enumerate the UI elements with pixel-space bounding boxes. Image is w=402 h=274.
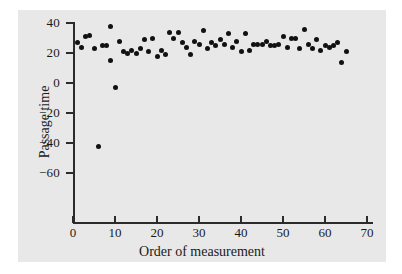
- scatter-point: [285, 45, 290, 50]
- y-tick-mark: [66, 172, 74, 174]
- x-axis-line: [73, 222, 373, 224]
- x-tick-mark: [156, 216, 158, 223]
- x-axis-title: Order of measurement: [18, 244, 386, 260]
- scatter-point: [184, 45, 189, 50]
- figure-panel: 40200−20−40−60010203040506070 Order of m…: [18, 10, 386, 262]
- scatter-point: [87, 33, 92, 38]
- scatter-point: [339, 60, 344, 65]
- y-tick-mark: [66, 22, 74, 24]
- scatter-point: [222, 42, 227, 47]
- x-tick-label: 50: [268, 226, 298, 239]
- scatter-point: [197, 42, 202, 47]
- x-tick-mark: [198, 216, 200, 223]
- x-tick-mark: [240, 216, 242, 223]
- y-axis-title: Passage time: [37, 47, 53, 197]
- scatter-point: [176, 30, 181, 35]
- scatter-point: [108, 24, 113, 29]
- scatter-point: [96, 144, 101, 149]
- scatter-point: [163, 52, 168, 57]
- scatter-point: [243, 31, 248, 36]
- scatter-point: [226, 31, 231, 36]
- scatter-point: [310, 46, 315, 51]
- scatter-point: [142, 37, 147, 42]
- scatter-point: [138, 46, 143, 51]
- scatter-point: [234, 39, 239, 44]
- scatter-point: [344, 49, 349, 54]
- y-tick-label: 40: [20, 16, 60, 29]
- scatter-point: [247, 48, 252, 53]
- scatter-point: [201, 28, 206, 33]
- scatter-point: [180, 40, 185, 45]
- scatter-point: [239, 49, 244, 54]
- scatter-point: [150, 36, 155, 41]
- x-tick-mark: [72, 216, 74, 223]
- scatter-point: [79, 45, 84, 50]
- scatter-point: [155, 54, 160, 59]
- scatter-point: [134, 51, 139, 56]
- x-tick-label: 10: [100, 226, 130, 239]
- x-tick-mark: [366, 216, 368, 223]
- scatter-point: [281, 34, 286, 39]
- x-tick-mark: [324, 216, 326, 223]
- x-tick-mark: [282, 216, 284, 223]
- scatter-point: [113, 85, 118, 90]
- scatter-point: [92, 46, 97, 51]
- x-tick-label: 60: [310, 226, 340, 239]
- scatter-point: [318, 48, 323, 53]
- scatter-point: [302, 27, 307, 32]
- scatter-point: [230, 45, 235, 50]
- y-tick-mark: [66, 82, 74, 84]
- plot-area: [74, 32, 374, 222]
- scatter-point: [171, 36, 176, 41]
- x-tick-label: 70: [352, 226, 382, 239]
- scatter-point: [75, 40, 80, 45]
- x-tick-mark: [114, 216, 116, 223]
- y-tick-mark: [66, 112, 74, 114]
- scatter-point: [117, 39, 122, 44]
- x-tick-label: 40: [226, 226, 256, 239]
- y-tick-mark: [66, 52, 74, 54]
- scatter-point: [293, 36, 298, 41]
- y-tick-mark: [66, 142, 74, 144]
- x-tick-label: 20: [142, 226, 172, 239]
- scatter-point: [167, 30, 172, 35]
- scatter-point: [205, 46, 210, 51]
- x-tick-label: 0: [58, 226, 88, 239]
- x-tick-label: 30: [184, 226, 214, 239]
- scatter-point: [276, 42, 281, 47]
- scatter-point: [218, 37, 223, 42]
